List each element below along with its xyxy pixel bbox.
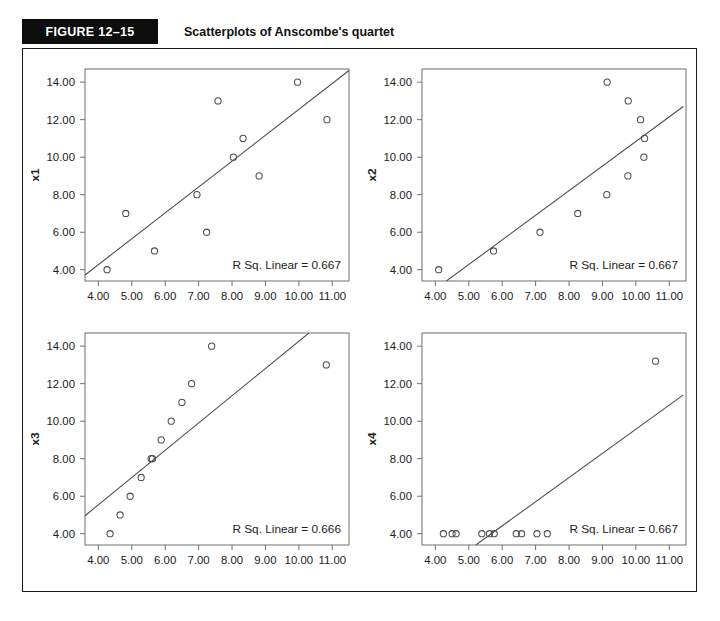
- y-axis-title: x1: [28, 168, 42, 182]
- plot-frame: [85, 333, 349, 545]
- x-tick-label: 4.00: [424, 554, 446, 566]
- x-tick-label: 5.00: [121, 290, 143, 302]
- x-tick-label: 4.00: [87, 554, 109, 566]
- y-tick-label: 12.00: [383, 378, 412, 390]
- scatterplot-panel-grid: 4.005.006.007.008.009.0010.0011.004.006.…: [23, 49, 696, 591]
- y-tick-label: 14.00: [46, 76, 75, 88]
- y-tick-label: 12.00: [46, 114, 75, 126]
- y-tick-label: 12.00: [383, 114, 412, 126]
- x-tick-label: 11.00: [655, 554, 683, 566]
- y-tick-label: 10.00: [383, 151, 412, 163]
- r-squared-annotation: R Sq. Linear = 0.667: [569, 522, 678, 536]
- x-tick-label: 8.00: [221, 290, 243, 302]
- y-tick-label: 8.00: [390, 453, 412, 465]
- x-tick-label: 7.00: [188, 554, 210, 566]
- plot-frame: [422, 69, 686, 281]
- y-tick-label: 8.00: [390, 189, 412, 201]
- panel-x4-svg: 4.005.006.007.008.009.0010.0011.004.006.…: [360, 315, 698, 579]
- x-tick-label: 9.00: [591, 554, 613, 566]
- x-tick-label: 6.00: [491, 290, 513, 302]
- panel-x1: 4.005.006.007.008.009.0010.0011.004.006.…: [23, 51, 361, 315]
- x-tick-label: 6.00: [491, 554, 513, 566]
- y-tick-label: 8.00: [53, 189, 75, 201]
- y-tick-label: 6.00: [390, 490, 412, 502]
- x-tick-label: 11.00: [655, 290, 683, 302]
- y-tick-label: 8.00: [53, 453, 75, 465]
- y-tick-label: 14.00: [383, 340, 412, 352]
- x-tick-label: 9.00: [254, 554, 276, 566]
- x-tick-label: 8.00: [558, 554, 580, 566]
- figure-number-tag: FIGURE 12–15: [22, 19, 158, 44]
- x-tick-label: 9.00: [254, 290, 276, 302]
- y-tick-label: 10.00: [46, 415, 75, 427]
- x-tick-label: 10.00: [285, 554, 314, 566]
- figure-border: 4.005.006.007.008.009.0010.0011.004.006.…: [22, 48, 697, 592]
- x-tick-label: 11.00: [318, 554, 346, 566]
- y-tick-label: 12.00: [46, 378, 75, 390]
- x-tick-label: 8.00: [558, 290, 580, 302]
- plot-frame: [422, 333, 686, 545]
- y-axis-title: x2: [365, 168, 379, 182]
- x-tick-label: 6.00: [154, 290, 176, 302]
- x-tick-label: 10.00: [285, 290, 314, 302]
- x-tick-label: 10.00: [622, 554, 651, 566]
- y-tick-label: 10.00: [383, 415, 412, 427]
- y-tick-label: 4.00: [53, 528, 75, 540]
- x-tick-label: 8.00: [221, 554, 243, 566]
- x-tick-label: 5.00: [458, 290, 480, 302]
- y-axis-title: x3: [28, 432, 42, 446]
- figure-header: FIGURE 12–15 Scatterplots of Anscombe's …: [22, 19, 394, 44]
- x-tick-label: 7.00: [525, 554, 547, 566]
- x-tick-label: 4.00: [424, 290, 446, 302]
- x-tick-label: 4.00: [87, 290, 109, 302]
- y-tick-label: 14.00: [383, 76, 412, 88]
- y-tick-label: 6.00: [53, 226, 75, 238]
- y-axis-title: x4: [365, 432, 379, 446]
- r-squared-annotation: R Sq. Linear = 0.667: [569, 258, 678, 272]
- y-tick-label: 10.00: [46, 151, 75, 163]
- y-tick-label: 4.00: [390, 528, 412, 540]
- x-tick-label: 6.00: [154, 554, 176, 566]
- panel-x3: 4.005.006.007.008.009.0010.0011.004.006.…: [23, 315, 361, 579]
- figure-title: Scatterplots of Anscombe's quartet: [158, 19, 394, 44]
- panel-x3-svg: 4.005.006.007.008.009.0010.0011.004.006.…: [23, 315, 361, 579]
- y-tick-label: 6.00: [390, 226, 412, 238]
- panel-x4: 4.005.006.007.008.009.0010.0011.004.006.…: [360, 315, 698, 579]
- x-tick-label: 7.00: [525, 290, 547, 302]
- r-squared-annotation: R Sq. Linear = 0.666: [232, 522, 341, 536]
- r-squared-annotation: R Sq. Linear = 0.667: [232, 258, 341, 272]
- panel-x2-svg: 4.005.006.007.008.009.0010.0011.004.006.…: [360, 51, 698, 315]
- panel-x2: 4.005.006.007.008.009.0010.0011.004.006.…: [360, 51, 698, 315]
- x-tick-label: 10.00: [622, 290, 651, 302]
- x-tick-label: 5.00: [121, 554, 143, 566]
- x-tick-label: 11.00: [318, 290, 346, 302]
- y-tick-label: 4.00: [390, 264, 412, 276]
- panel-x1-svg: 4.005.006.007.008.009.0010.0011.004.006.…: [23, 51, 361, 315]
- x-tick-label: 9.00: [591, 290, 613, 302]
- x-tick-label: 5.00: [458, 554, 480, 566]
- x-tick-label: 7.00: [188, 290, 210, 302]
- y-tick-label: 14.00: [46, 340, 75, 352]
- y-tick-label: 6.00: [53, 490, 75, 502]
- y-tick-label: 4.00: [53, 264, 75, 276]
